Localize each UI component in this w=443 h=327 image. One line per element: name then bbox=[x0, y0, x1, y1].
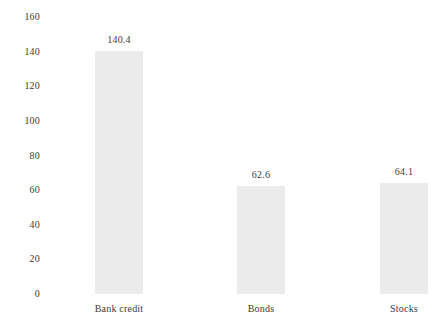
category-label: Bonds bbox=[248, 304, 275, 314]
bar-group: 64.1 Stocks bbox=[380, 0, 428, 327]
category-label: Stocks bbox=[390, 304, 418, 314]
bar-group: 62.6 Bonds bbox=[237, 0, 285, 327]
bar-group: 140.4 Bank credit bbox=[95, 0, 143, 327]
bar[interactable] bbox=[95, 51, 143, 294]
bar[interactable] bbox=[380, 183, 428, 294]
category-label: Bank credit bbox=[95, 304, 144, 314]
plot-area: 140.4 Bank credit 62.6 Bonds 64.1 Stocks bbox=[0, 0, 443, 327]
bar-chart: 160 140 120 100 80 60 40 20 0 140.4 Bank… bbox=[0, 0, 443, 327]
bar-value-label: 62.6 bbox=[252, 170, 270, 180]
bar[interactable] bbox=[237, 186, 285, 294]
bar-value-label: 140.4 bbox=[107, 35, 131, 45]
bar-value-label: 64.1 bbox=[395, 167, 413, 177]
